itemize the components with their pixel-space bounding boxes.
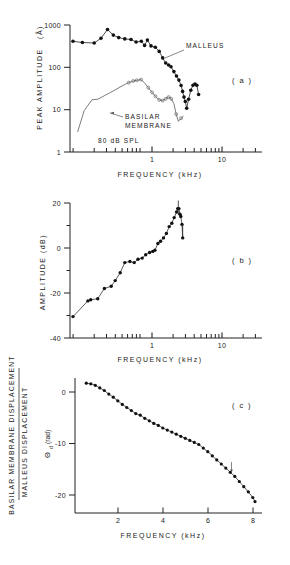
panel-c-label: ( c ) [232, 401, 252, 410]
panel-a-yunit: (Å) [35, 25, 44, 39]
panel-a: 1000 100 10 1 [35, 22, 262, 180]
panel-b-xtick-10: 10 [218, 342, 226, 349]
panel-c-ytick-minus10: -10 [55, 440, 66, 447]
panel-a-label: ( a ) [232, 76, 252, 85]
panel-b-ytick-20: 20 [53, 200, 61, 207]
panel-b-label: ( b ) [232, 256, 252, 265]
panel-a-ytick-100: 100 [48, 64, 61, 71]
panel-a-x-ticks [73, 147, 255, 153]
panel-c-phase-curve [86, 383, 255, 501]
panel-b-ylabel: AMPLITUDE (dB) [39, 234, 47, 310]
basilar-annotation-line1: BASILAR [125, 113, 161, 120]
panel-c-x-ticks [118, 508, 253, 514]
panel-b-xlabel: FREQUENCY (kHz) [118, 356, 203, 364]
panel-a-ylabel: PEAK AMPLITUDE [36, 48, 43, 129]
panel-c: 0 -10 -20 2 4 6 8 FREQUENCY (kHz) Θ d (r… [43, 378, 262, 540]
panel-b-y-ticks [64, 203, 70, 338]
figure-root: 1000 100 10 1 [0, 0, 290, 565]
panel-c-xtick-8: 8 [251, 517, 255, 524]
basilar-annotation-line2: MEMBRANE [125, 122, 172, 129]
panel-c-xtick-2: 2 [116, 517, 120, 524]
panel-b-points [71, 207, 184, 318]
panel-b: 20 0 -20 -40 [39, 200, 262, 365]
malleus-leader-line [165, 50, 184, 58]
side-label-numerator: BASILAR MEMBRANE DISPLACEMENT [8, 355, 15, 514]
spl-level-annotation: 80 dB SPL [98, 137, 139, 144]
panel-c-xlabel: FREQUENCY (kHz) [121, 532, 206, 540]
panel-c-ylabel-symbol: Θ [43, 452, 52, 458]
panel-b-ytick-minus40: -40 [50, 335, 61, 342]
panel-a-xtick-10: 10 [218, 156, 226, 163]
panel-c-xtick-6: 6 [206, 517, 210, 524]
figure-svg: 1000 100 10 1 [0, 0, 290, 565]
panel-c-y-ticks [69, 392, 75, 495]
panel-c-ytick-0: 0 [62, 389, 66, 396]
malleus-points [71, 28, 200, 110]
panel-a-ytick-10: 10 [53, 106, 61, 113]
panel-c-ylabel-sub: d [48, 446, 54, 449]
panel-b-x-ticks [73, 333, 255, 339]
panel-c-points [85, 382, 257, 504]
panel-b-xtick-1: 1 [150, 342, 154, 349]
panel-a-ytick-1: 1 [57, 149, 61, 156]
side-fraction-label: BASILAR MEMBRANE DISPLACEMENT MALLEUS DI… [8, 355, 28, 514]
panel-c-ylabel-group: Θ d (rad) [43, 430, 54, 458]
panel-a-y-ticks [64, 25, 70, 152]
panel-c-ylabel-unit: (rad) [44, 430, 52, 444]
panel-b-ytick-0: 0 [57, 245, 61, 252]
panel-c-ytick-minus20: -20 [55, 492, 66, 499]
panel-a-xtick-1: 1 [150, 156, 154, 163]
panel-b-ytick-minus20: -20 [50, 290, 61, 297]
panel-a-xlabel: FREQUENCY (kHz) [118, 171, 203, 179]
panel-a-ytick-1000: 1000 [44, 22, 61, 29]
panel-c-xtick-4: 4 [161, 517, 165, 524]
side-label-denominator: MALLEUS DISPLACEMENT [21, 387, 28, 498]
malleus-annotation: MALLEUS [186, 42, 224, 49]
